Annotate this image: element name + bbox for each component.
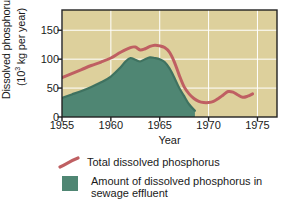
x-axis-label: Year [62, 134, 277, 146]
x-tick-1970: 1970 [189, 119, 229, 131]
legend-label-line1: Amount of dissolved phosphorus in [91, 175, 262, 187]
x-tick-1975: 1975 [237, 119, 277, 131]
legend-line-swatch [58, 156, 80, 170]
x-tick-1960: 1960 [91, 119, 131, 131]
x-tick-1965: 1965 [140, 119, 180, 131]
legend-label-line2: sewage effluent [91, 187, 262, 199]
chart-figure: Dissolved phosphorus (103 kg per year) 1… [0, 0, 288, 205]
legend-label-total-phosphorus: Total dissolved phosphorus [87, 155, 220, 168]
legend-item-sewage-effluent: Amount of dissolved phosphorus in sewage… [58, 174, 288, 199]
chart-legend: Total dissolved phosphorus Amount of dis… [58, 155, 288, 203]
legend-label-sewage-effluent: Amount of dissolved phosphorus in sewage… [91, 174, 262, 199]
legend-item-total-phosphorus: Total dissolved phosphorus [58, 155, 288, 170]
legend-box-swatch [62, 176, 78, 191]
x-axis-tick-labels: 19551960196519701975 [0, 119, 288, 133]
x-tick-1955: 1955 [42, 119, 82, 131]
